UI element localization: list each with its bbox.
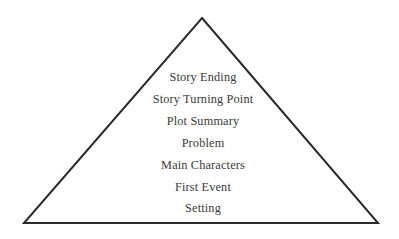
pyramid-label-story-turning-point: Story Turning Point <box>4 92 399 106</box>
pyramid-label-stack: Story Ending Story Turning Point Plot Su… <box>0 0 399 239</box>
pyramid-label-main-characters: Main Characters <box>4 158 399 172</box>
pyramid-label-plot-summary: Plot Summary <box>4 114 399 128</box>
pyramid-label-story-ending: Story Ending <box>4 70 399 84</box>
story-pyramid-figure: Story Ending Story Turning Point Plot Su… <box>0 0 399 239</box>
pyramid-label-setting: Setting <box>4 201 399 215</box>
pyramid-label-problem: Problem <box>4 136 399 150</box>
pyramid-label-first-event: First Event <box>4 180 399 194</box>
